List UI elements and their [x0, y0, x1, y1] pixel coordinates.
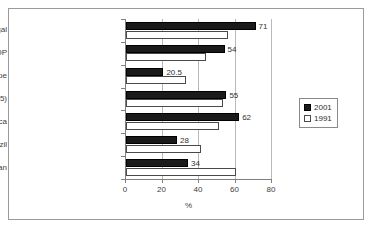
y-tick — [121, 133, 125, 134]
bar-value-label: 71 — [259, 22, 268, 31]
bar-1991 — [126, 99, 223, 107]
category-label: PALOP — [0, 48, 7, 57]
legend-label-1991: 1991 — [314, 114, 332, 123]
bar-value-label: 55 — [229, 91, 238, 100]
y-tick — [121, 88, 125, 89]
y-tick — [121, 110, 125, 111]
y-tick — [121, 65, 125, 66]
x-axis-label: % — [185, 201, 192, 210]
bar-2001 — [126, 159, 188, 167]
chart-legend: 2001 1991 — [299, 98, 338, 128]
x-tick — [235, 179, 236, 183]
category-label: Portugal — [0, 25, 7, 34]
bar-1991 — [126, 53, 206, 61]
x-tick — [271, 179, 272, 183]
gridline — [271, 19, 272, 179]
x-tick — [125, 179, 126, 183]
category-label: Eastern Europe — [0, 71, 7, 80]
legend-swatch-2001 — [304, 104, 311, 111]
bar-value-label: 54 — [228, 45, 237, 54]
x-tick-label: 60 — [230, 185, 239, 194]
x-tick-label: 40 — [194, 185, 203, 194]
category-label: Brazil — [0, 140, 7, 149]
bar-2001 — [126, 22, 256, 30]
bar-1991 — [126, 168, 236, 176]
bar-1991 — [126, 31, 228, 39]
bar-1991 — [126, 76, 186, 84]
y-tick — [121, 19, 125, 20]
bar-2001 — [126, 68, 163, 76]
chart-frame: 020406080 PortugalPALOPEastern EuropeEur… — [8, 8, 364, 220]
legend-swatch-1991 — [304, 115, 311, 122]
bar-2001 — [126, 113, 239, 121]
legend-item-2001: 2001 — [304, 102, 332, 113]
bar-1991 — [126, 122, 219, 130]
x-tick — [198, 179, 199, 183]
x-tick-label: 20 — [157, 185, 166, 194]
x-tick-label: 0 — [123, 185, 127, 194]
y-tick — [121, 156, 125, 157]
bar-2001 — [126, 136, 177, 144]
legend-item-1991: 1991 — [304, 113, 332, 124]
plot-area: 020406080 PortugalPALOPEastern EuropeEur… — [125, 19, 271, 179]
category-label: North America — [0, 117, 7, 126]
category-label: European Union (15) — [0, 94, 7, 103]
y-tick — [121, 42, 125, 43]
bar-2001 — [126, 91, 226, 99]
y-tick — [121, 179, 125, 180]
legend-label-2001: 2001 — [314, 103, 332, 112]
category-label: China, India & Pakistan — [0, 163, 7, 172]
bar-value-label: 62 — [242, 113, 251, 122]
x-tick-label: 80 — [267, 185, 276, 194]
bar-2001 — [126, 45, 225, 53]
x-tick — [162, 179, 163, 183]
bar-1991 — [126, 145, 201, 153]
